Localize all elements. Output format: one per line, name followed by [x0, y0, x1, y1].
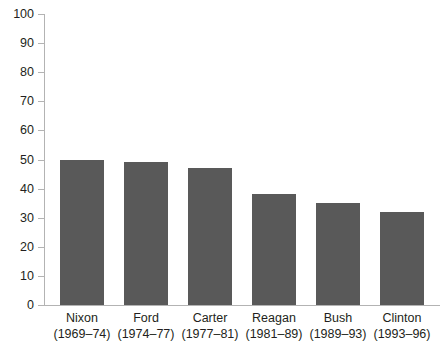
- bar: [124, 162, 168, 305]
- y-axis-tick-label: 40: [2, 183, 34, 196]
- y-axis-tick-label: 100: [2, 8, 34, 21]
- x-axis-category-label: Clinton(1993–96): [358, 310, 444, 342]
- y-axis-tick: [38, 305, 45, 306]
- bar: [60, 160, 104, 306]
- bar: [252, 194, 296, 305]
- y-axis-tick: [38, 276, 45, 277]
- y-axis-tick-label: 60: [2, 124, 34, 137]
- y-axis-tick: [38, 72, 45, 73]
- y-axis-tick: [38, 43, 45, 44]
- x-axis-category-years: (1993–96): [358, 326, 444, 342]
- cropped-title-sliver: [0, 0, 444, 7]
- y-axis-tick-label: 10: [2, 270, 34, 283]
- y-axis-tick-label: 20: [2, 241, 34, 254]
- y-axis-tick-label: 0: [2, 299, 34, 312]
- x-axis-category-name: Clinton: [358, 310, 444, 326]
- y-axis-tick: [38, 14, 45, 15]
- y-axis-tick-label: 90: [2, 37, 34, 50]
- y-axis-tick-label: 30: [2, 212, 34, 225]
- y-axis-tick: [38, 247, 45, 248]
- x-axis-line: [44, 305, 440, 306]
- y-axis-tick: [38, 101, 45, 102]
- y-axis-tick: [38, 130, 45, 131]
- y-axis-tick-label: 80: [2, 66, 34, 79]
- bar-chart: 0102030405060708090100 Nixon(1969–74)For…: [0, 0, 444, 351]
- y-axis-tick: [38, 189, 45, 190]
- bar: [316, 203, 360, 305]
- y-axis-tick-label: 50: [2, 154, 34, 167]
- y-axis-tick-label: 70: [2, 95, 34, 108]
- y-axis-tick: [38, 160, 45, 161]
- plot-area: [45, 14, 440, 305]
- bar: [188, 168, 232, 305]
- bar: [380, 212, 424, 305]
- y-axis-tick: [38, 218, 45, 219]
